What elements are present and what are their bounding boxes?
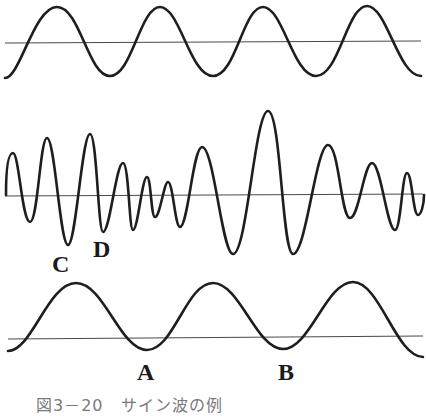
label-d: D <box>93 236 110 262</box>
complex-wave-group: C D <box>5 111 424 277</box>
label-a: A <box>137 359 155 385</box>
label-b: B <box>278 359 294 385</box>
label-c: C <box>52 251 69 277</box>
complex-wave <box>6 111 424 254</box>
top-baseline <box>5 41 421 43</box>
bottom-wave-group: A B <box>8 282 423 385</box>
bottom-sine-wave <box>8 282 423 357</box>
top-wave-group <box>5 6 421 78</box>
figure-caption: 図3－20 サイン波の例 <box>36 392 223 416</box>
bottom-baseline <box>8 336 423 339</box>
